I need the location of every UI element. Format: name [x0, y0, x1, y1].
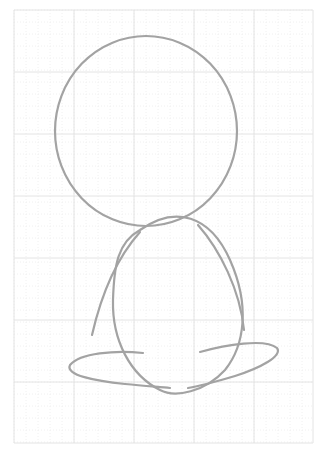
grid-major-lines: [14, 10, 313, 443]
grid-minor-lines: [14, 10, 313, 443]
right-foot-loop: [188, 343, 278, 388]
drawing-surface: [0, 0, 323, 457]
sketch-strokes: [55, 36, 278, 393]
body-oval: [113, 217, 243, 394]
sketch-canvas: [0, 0, 323, 457]
